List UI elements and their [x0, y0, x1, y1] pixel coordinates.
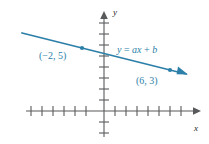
linear-graph-figure: y x (−2, 5) (6, 3) y = ax + b — [0, 0, 209, 144]
point-label-first: (−2, 5) — [39, 51, 66, 61]
point-label-second: (6, 3) — [136, 76, 158, 86]
x-axis-label: x — [194, 124, 198, 133]
x-axis — [26, 106, 201, 116]
y-axis-label: y — [113, 8, 117, 17]
data-point-1 — [80, 46, 84, 50]
equation-label: y = ax + b — [117, 45, 157, 55]
data-point-2 — [168, 68, 172, 72]
coordinate-plane — [0, 0, 209, 144]
y-axis — [99, 11, 109, 137]
equation-equals: = — [121, 44, 132, 55]
equation-plus: + — [142, 44, 153, 55]
equation-b-term: b — [152, 44, 157, 55]
